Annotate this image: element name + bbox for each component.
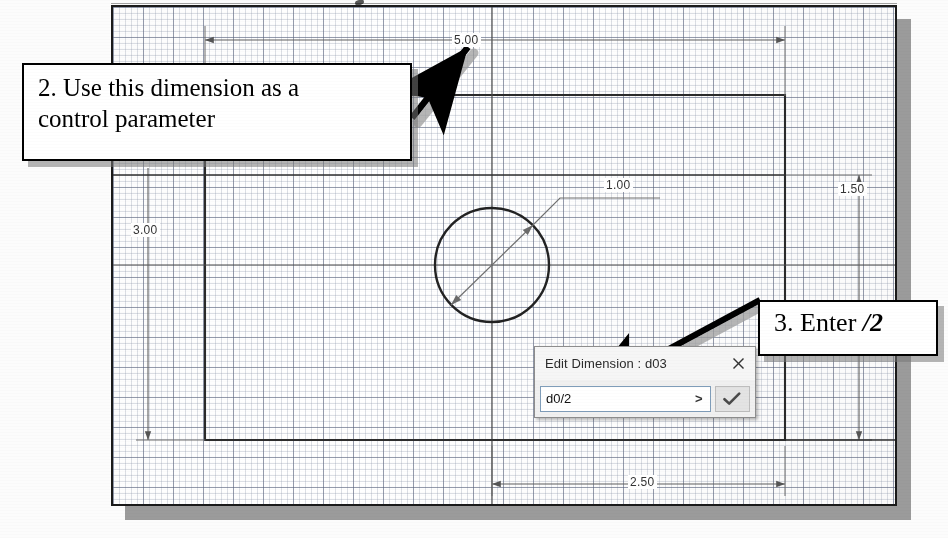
callout-step-3-prefix: 3. Enter xyxy=(774,308,863,337)
dimension-label-right-height[interactable]: 1.50 xyxy=(838,182,867,196)
dimension-label-top-width[interactable]: 5.00 xyxy=(452,33,481,47)
checkmark-icon xyxy=(723,392,741,406)
dialog-title-text: Edit Dimension : d03 xyxy=(545,356,667,371)
callout-step-3-emphasis: /2 xyxy=(863,308,883,337)
dialog-body: > xyxy=(535,380,755,417)
callout-step-2-line-2: control parameter xyxy=(38,104,396,135)
figure-root: 5.00 1.00 1.50 3.00 2.50 2. Use this dim… xyxy=(0,0,948,538)
dimension-label-circle-diameter[interactable]: 1.00 xyxy=(604,178,633,192)
dimension-value-input[interactable] xyxy=(541,386,710,412)
dimension-label-bottom-width[interactable]: 2.50 xyxy=(628,475,657,489)
dimension-label-left-height[interactable]: 3.00 xyxy=(131,223,160,237)
edit-dimension-dialog[interactable]: Edit Dimension : d03 > xyxy=(534,346,756,418)
accept-button[interactable] xyxy=(715,386,750,412)
page-rule-line xyxy=(111,3,897,4)
dimension-value-field-wrapper[interactable]: > xyxy=(540,386,711,412)
callout-step-3: 3. Enter /2 xyxy=(758,300,938,356)
callout-step-2: 2. Use this dimension as a control param… xyxy=(22,63,412,161)
callout-step-2-line-1: 2. Use this dimension as a xyxy=(38,73,396,104)
close-icon[interactable] xyxy=(727,353,749,373)
expand-options-icon[interactable]: > xyxy=(691,390,707,408)
dialog-title-bar: Edit Dimension : d03 xyxy=(535,347,755,380)
